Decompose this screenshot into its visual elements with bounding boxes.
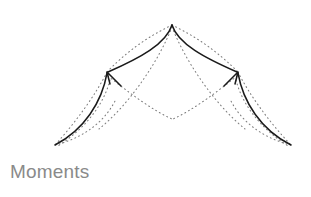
caption-layer: Moments — [10, 160, 210, 190]
figure-root: Moments — [0, 0, 311, 197]
figure-caption: Moments — [10, 160, 210, 184]
